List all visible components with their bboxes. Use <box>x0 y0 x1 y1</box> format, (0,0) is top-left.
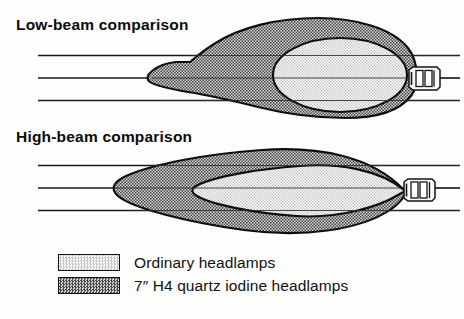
panel-high-beam <box>38 149 460 233</box>
vehicle-low-beam <box>409 67 440 90</box>
panel-title-low-beam: Low-beam comparison <box>16 16 189 34</box>
legend-label-ordinary: Ordinary headlamps <box>134 254 275 272</box>
legend-swatch-ordinary-icon <box>58 254 120 271</box>
legend-item-quartz-iodine: 7″ H4 quartz iodine headlamps <box>58 275 438 296</box>
legend-item-ordinary: Ordinary headlamps <box>58 252 438 273</box>
legend: Ordinary headlamps 7″ H4 quartz iodine h… <box>58 252 438 298</box>
vehicle-high-beam <box>404 179 435 201</box>
legend-label-quartz-iodine: 7″ H4 quartz iodine headlamps <box>134 277 348 295</box>
panel-title-high-beam: High-beam comparison <box>16 128 192 146</box>
legend-swatch-quartz-iodine-icon <box>58 277 120 294</box>
